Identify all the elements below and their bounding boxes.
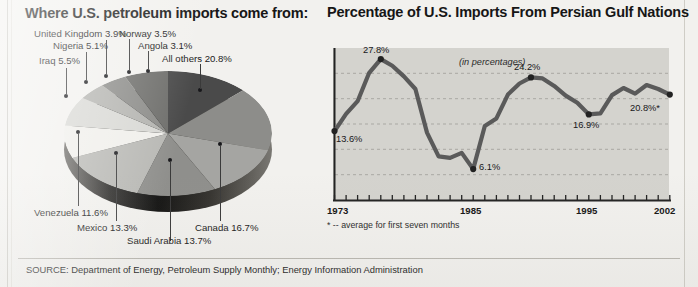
x-tick-marks [335,195,670,200]
pie-top-face [64,71,272,196]
pie-slices-svg [64,71,272,196]
line-chart-title: Percentage of U.S. Imports From Persian … [327,4,689,20]
x-tick-label-1973: 1973 [327,205,348,216]
pie-leader-line-iraq [66,68,67,95]
source-divider [18,258,680,259]
pie-label-venezuela: Venezuela 11.6% [34,207,108,218]
x-tick-label-1985: 1985 [460,205,481,216]
pie-leader-line-all-others [200,64,201,89]
pie-label-canada: Canada 16.7% [195,222,258,233]
pie-disc [64,71,272,196]
pie-label-all-others: All others 20.8% [162,53,232,64]
data-label-1990: 24.2% [514,62,540,72]
left-border-rule-inner [11,0,12,287]
right-border-rule [684,0,685,287]
pie-label-iraq: Iraq 5.5% [39,55,80,66]
data-label-1973: 13.6% [336,134,362,144]
pie-leader-line-mexico [116,154,117,221]
line-chart: (in percentages) 13.6% 27.8% 6.1% 24.2% … [327,48,679,244]
data-point-1995 [586,111,592,117]
pie-label-united-kingdom: United Kingdom 3.9% [34,28,127,39]
pie-leader-line-canada [220,145,221,221]
pie-label-mexico: Mexico 13.3% [77,222,137,233]
data-series-line [335,59,670,169]
pie-label-saudi-arabia: Saudi Arabia 13.7% [127,235,211,246]
data-point-markers [331,56,673,172]
line-chart-svg [327,48,679,244]
data-label-2002: 20.8%* [630,103,660,113]
data-point-1990 [528,74,534,80]
left-border-rule [7,0,8,287]
x-tick-label-2002: 2002 [654,205,675,216]
data-label-1995: 16.9% [573,120,599,130]
data-point-2002 [667,92,673,98]
infographic-page: Where U.S. petroleum imports come from: … [0,0,698,287]
pie-leader-line-angola [148,51,149,70]
data-label-1977: 27.8% [363,45,389,55]
data-label-1985: 6.1% [479,162,500,172]
pie-label-nigeria: Nigeria 5.1% [53,40,108,51]
pie-chart: United Kingdom 3.9% Nigeria 5.1% Iraq 5.… [16,26,306,241]
pie-leader-line-venezuela [78,133,79,206]
pie-chart-title: Where U.S. petroleum imports come from: [25,5,308,21]
data-point-1977 [378,56,384,62]
pie-leader-line-saudi [170,161,171,241]
pie-label-norway: Norway 3.5% [119,28,176,39]
pie-leader-line-norway [129,39,130,71]
pie-leader-line-nigeria [86,52,87,81]
chart-footnote: * -- average for first seven months [327,220,460,230]
x-tick-label-1995: 1995 [576,205,597,216]
source-note: SOURCE: Department of Energy, Petroleum … [26,264,423,275]
data-point-1985 [470,166,476,172]
pie-label-angola: Angola 3.1% [138,40,192,51]
